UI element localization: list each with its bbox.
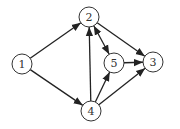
node-4: 4 — [81, 101, 101, 121]
nodes: 12345 — [12, 7, 163, 121]
node-label: 5 — [111, 57, 118, 70]
node-label: 2 — [86, 11, 93, 24]
edge-2-3 — [97, 23, 145, 56]
node-label: 3 — [150, 56, 157, 69]
node-2: 2 — [79, 7, 99, 27]
edge-1-2 — [30, 23, 81, 59]
node-label: 4 — [88, 105, 95, 118]
node-5: 5 — [104, 53, 124, 73]
edge-4-3 — [99, 68, 145, 105]
node-3: 3 — [143, 52, 163, 72]
edges — [30, 23, 145, 106]
edge-4-2 — [89, 27, 91, 101]
edge-1-4 — [30, 70, 82, 106]
node-1: 1 — [12, 54, 32, 74]
graph-diagram: 12345 — [0, 0, 180, 129]
node-label: 1 — [19, 58, 26, 71]
